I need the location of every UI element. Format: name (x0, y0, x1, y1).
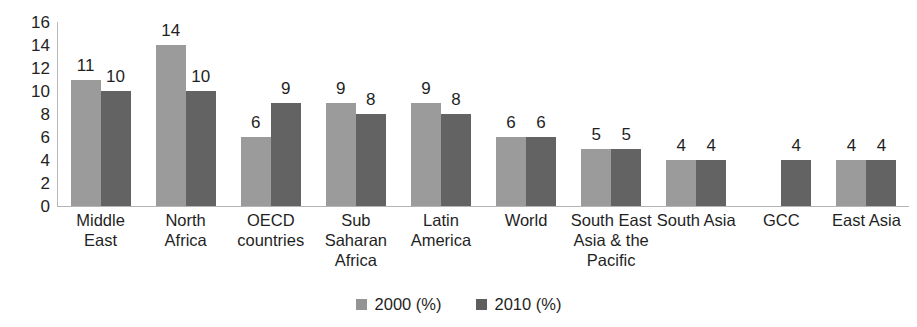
bar: 5 (581, 149, 611, 207)
y-axis-tick-label: 0 (40, 198, 50, 215)
legend-item: 2000 (%) (356, 296, 442, 313)
category-label-line: Middle (58, 210, 143, 230)
bar: 9 (411, 103, 441, 207)
x-axis-category-labels: MiddleEastNorthAfricaOECDcountriesSubSah… (58, 210, 909, 290)
bar-value-label: 5 (621, 126, 630, 143)
bar-value-label: 14 (161, 22, 180, 39)
bar-value-label: 4 (677, 137, 686, 154)
bar-group-bars: 98 (313, 22, 398, 206)
x-axis-category-label: World (484, 210, 569, 230)
y-axis-tick-label: 2 (40, 175, 50, 192)
bar-value-label: 6 (506, 114, 515, 131)
bar: 14 (156, 45, 186, 206)
bar: 4 (836, 160, 866, 206)
bar-value-label: 4 (792, 137, 801, 154)
bar-group: 1110 (58, 22, 143, 206)
bar: 9 (326, 103, 356, 207)
x-axis-category-label: SubSaharanAfrica (313, 210, 398, 270)
category-label-line: Africa (313, 250, 398, 270)
x-axis-category-label: South Asia (654, 210, 739, 230)
x-axis-category-label: LatinAmerica (398, 210, 483, 250)
bar-group-bars: 44 (654, 22, 739, 206)
legend-color-swatch (476, 299, 487, 310)
bar-group: 98 (313, 22, 398, 206)
bar-group: 98 (398, 22, 483, 206)
category-label-line: Africa (143, 230, 228, 250)
bar: 11 (71, 80, 101, 207)
bar: 6 (241, 137, 271, 206)
category-label-line: South Asia (654, 210, 739, 230)
bar-value-label: 8 (366, 91, 375, 108)
bar: 6 (496, 137, 526, 206)
bar-group: 44 (824, 22, 909, 206)
y-axis: 1614121086420 (14, 0, 50, 327)
bar: 4 (866, 160, 896, 206)
category-label-line: Asia & the (569, 230, 654, 250)
bar-value-label: 5 (591, 126, 600, 143)
bar: 4 (781, 160, 811, 206)
x-axis-category-label: MiddleEast (58, 210, 143, 250)
y-axis-tick-label: 16 (31, 14, 50, 31)
category-label-line: OECD (228, 210, 313, 230)
bar-value-label: 9 (281, 80, 290, 97)
bar-group: 66 (484, 22, 569, 206)
bar: 8 (441, 114, 471, 206)
category-label-line: East (58, 230, 143, 250)
bar-value-label: 4 (877, 137, 886, 154)
bar-group-bars: 98 (398, 22, 483, 206)
chart-legend: 2000 (%)2010 (%) (0, 296, 917, 313)
bar-group-bars: 1110 (58, 22, 143, 206)
bar-chart: 1614121086420 11101410699898665544444 Mi… (0, 0, 917, 327)
x-axis-line (57, 206, 909, 207)
bar: 5 (611, 149, 641, 207)
bar: 4 (666, 160, 696, 206)
x-axis-category-label: NorthAfrica (143, 210, 228, 250)
category-label-line: North (143, 210, 228, 230)
legend-label: 2010 (%) (495, 296, 562, 313)
bar-value-label: 9 (421, 80, 430, 97)
x-axis-category-label: East Asia (824, 210, 909, 230)
category-label-line: GCC (739, 210, 824, 230)
bar-group: 1410 (143, 22, 228, 206)
bar-group-bars: 4 (739, 22, 824, 206)
category-label-line: World (484, 210, 569, 230)
x-axis-category-label: South EastAsia & thePacific (569, 210, 654, 270)
bar: 10 (101, 91, 131, 206)
category-label-line: America (398, 230, 483, 250)
bar: 10 (186, 91, 216, 206)
legend-label: 2000 (%) (375, 296, 442, 313)
bar-group: 4 (739, 22, 824, 206)
bar: 6 (526, 137, 556, 206)
bar: 9 (271, 103, 301, 207)
y-axis-tick-label: 14 (31, 37, 50, 54)
bar-value-label: 9 (336, 80, 345, 97)
bar-group: 69 (228, 22, 313, 206)
y-axis-tick-label: 6 (40, 129, 50, 146)
bar-value-label: 6 (251, 114, 260, 131)
category-label-line: Pacific (569, 250, 654, 270)
bar-group: 55 (569, 22, 654, 206)
category-label-line: countries (228, 230, 313, 250)
bar-value-label: 10 (106, 68, 125, 85)
category-label-line: East Asia (824, 210, 909, 230)
bar-value-label: 10 (191, 68, 210, 85)
bar-group-bars: 44 (824, 22, 909, 206)
bar-value-label: 11 (77, 57, 95, 74)
bar-value-label: 4 (847, 137, 856, 154)
legend-color-swatch (356, 299, 367, 310)
x-axis-category-label: GCC (739, 210, 824, 230)
category-label-line: Latin (398, 210, 483, 230)
y-axis-tick-label: 12 (31, 60, 50, 77)
bar-value-label: 6 (536, 114, 545, 131)
category-label-line: Saharan (313, 230, 398, 250)
y-axis-tick-label: 8 (40, 106, 50, 123)
category-label-line: South East (569, 210, 654, 230)
bar-group-bars: 1410 (143, 22, 228, 206)
bar-group-bars: 55 (569, 22, 654, 206)
plot-area: 11101410699898665544444 (58, 22, 909, 206)
y-axis-tick-label: 10 (31, 83, 50, 100)
legend-item: 2010 (%) (476, 296, 562, 313)
bar: 8 (356, 114, 386, 206)
bar-group: 44 (654, 22, 739, 206)
y-axis-tick-label: 4 (40, 152, 50, 169)
